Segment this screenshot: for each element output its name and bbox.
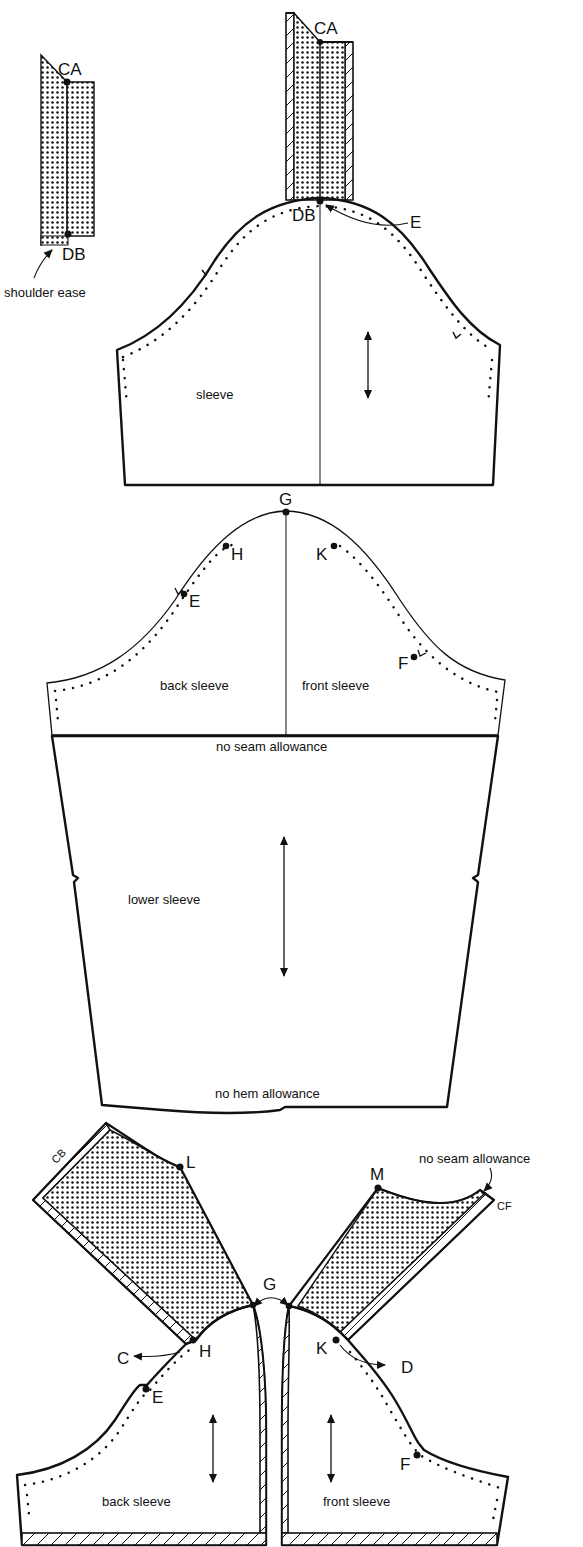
point-e-bottom xyxy=(143,1386,150,1393)
shoulder-ease-arrow xyxy=(34,250,52,278)
shoulder-piece: CA DB shoulder ease xyxy=(4,55,94,300)
cf-label: CF xyxy=(497,1200,512,1212)
no-seam-pointer-arrow xyxy=(484,1168,492,1191)
label-g-bottom: G xyxy=(263,1275,276,1294)
point-f-bottom xyxy=(414,1452,421,1459)
split-sleeve-cap: G H K E F back sleeve front sleeve xyxy=(47,490,505,735)
label-db-top: DB xyxy=(292,206,316,225)
label-f: F xyxy=(398,654,408,673)
label-e-top: E xyxy=(410,213,421,232)
lower-sleeve-label: lower sleeve xyxy=(128,892,200,907)
label-g: G xyxy=(279,490,292,509)
label-db: DB xyxy=(62,245,86,264)
point-ca-top xyxy=(317,39,323,45)
label-e-bottom: E xyxy=(152,1388,163,1407)
label-ca: CA xyxy=(58,60,82,79)
top-sleeve-piece: CA DB E sleeve xyxy=(117,13,500,485)
label-h-bottom: H xyxy=(199,1342,211,1361)
front-sleeve-bottom-label: front sleeve xyxy=(323,1494,390,1509)
point-k-bottom xyxy=(333,1337,340,1344)
label-e: E xyxy=(189,592,200,611)
point-f xyxy=(411,654,418,661)
point-ca xyxy=(64,79,71,86)
back-yoke-and-sleeve: L CB H C E back sleeve xyxy=(17,1123,266,1545)
point-db xyxy=(65,231,72,238)
label-h: H xyxy=(231,545,243,564)
label-m: M xyxy=(370,1165,384,1184)
point-h-bottom xyxy=(190,1337,197,1344)
back-sleeve-label: back sleeve xyxy=(160,678,229,693)
point-db-top xyxy=(317,198,324,205)
point-e xyxy=(181,591,188,598)
back-sleeve-bottom-label: back sleeve xyxy=(102,1494,171,1509)
point-h xyxy=(223,543,230,550)
no-hem-allowance-label: no hem allowance xyxy=(215,1086,320,1101)
point-k xyxy=(331,543,338,550)
front-yoke-and-sleeve: M CF no seam allowance K D F front sleev… xyxy=(282,1151,530,1545)
sleeve-pattern-diagram: CA DB shoulder ease CA DB E sleeve xyxy=(0,0,583,1547)
shoulder-ease-label: shoulder ease xyxy=(4,285,86,300)
no-seam-allowance-label: no seam allowance xyxy=(216,739,327,754)
front-sleeve-label: front sleeve xyxy=(302,678,369,693)
label-d: D xyxy=(401,1358,413,1377)
point-g xyxy=(283,509,290,516)
cb-label: CB xyxy=(49,1146,68,1165)
front-no-seam-allowance-label: no seam allowance xyxy=(419,1151,530,1166)
label-k: K xyxy=(316,545,328,564)
label-l: L xyxy=(186,1153,195,1172)
label-ca-top: CA xyxy=(314,19,338,38)
label-c: C xyxy=(117,1349,129,1368)
g-connector: G xyxy=(250,1275,293,1309)
lower-sleeve-piece: no seam allowance lower sleeve no hem al… xyxy=(52,736,498,1113)
sleeve-label: sleeve xyxy=(196,387,234,402)
label-k-bottom: K xyxy=(316,1339,328,1358)
point-l xyxy=(177,1164,184,1171)
label-f-bottom: F xyxy=(400,1455,410,1474)
point-m xyxy=(375,1185,382,1192)
